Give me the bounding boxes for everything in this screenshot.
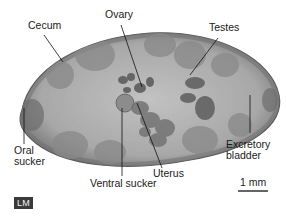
fluke-micrograph-figure: Cecum Ovary Testes Oral sucker Ventral s… <box>0 0 286 219</box>
scale-bar-label: 1 mm <box>240 176 266 188</box>
label-excretory-bladder: Excretory bladder <box>226 139 270 161</box>
label-ovary: Ovary <box>105 9 133 20</box>
label-testes: Testes <box>209 22 239 33</box>
label-ventral-sucker: Ventral sucker <box>90 178 157 189</box>
leader-cecum <box>44 35 63 62</box>
label-cecum: Cecum <box>28 20 61 31</box>
label-uterus: Uterus <box>153 168 184 179</box>
excretory-bladder-organ <box>262 88 278 112</box>
label-oral-sucker: Oral sucker <box>14 145 45 167</box>
lm-badge: LM <box>14 197 33 209</box>
